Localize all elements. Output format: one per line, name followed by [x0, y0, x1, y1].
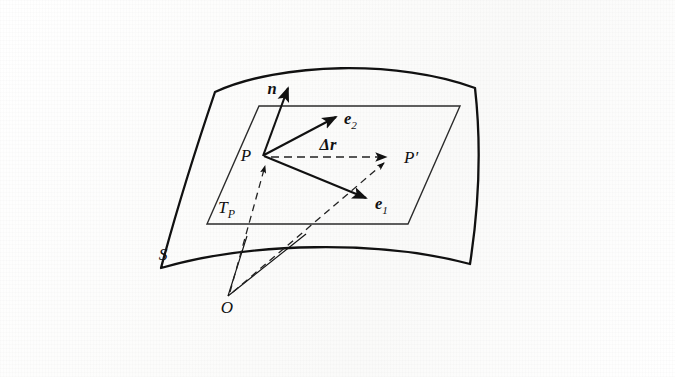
origin-rulings-group: [228, 234, 306, 296]
label-surface-s: S: [159, 244, 168, 264]
ruling-right: [228, 234, 306, 296]
label-point-p-prime: P′: [403, 148, 418, 167]
vector-e1-arrow: [264, 156, 366, 198]
label-tangent-plane: TP: [218, 197, 235, 221]
vector-n-arrow: [263, 88, 288, 156]
label-vector-e1-subscript: 1: [382, 204, 388, 216]
labels-group: S TP P P′ O n e2 e1 Δr: [159, 79, 419, 317]
label-origin-o: O: [221, 298, 233, 317]
label-vector-e2-base: e: [344, 109, 351, 128]
position-vectors-group: [230, 163, 384, 292]
surface-patch-group: [161, 68, 479, 268]
label-vector-e1-base: e: [375, 194, 382, 213]
label-tangent-plane-subscript: P: [227, 207, 235, 221]
label-point-p: P: [240, 146, 251, 165]
position-vector-to-p-prime: [233, 163, 384, 292]
tangent-plane-diagram: S TP P P′ O n e2 e1 Δr: [0, 0, 675, 377]
label-vector-e1: e1: [375, 194, 388, 216]
figure-root: S TP P P′ O n e2 e1 Δr: [0, 0, 675, 377]
label-vector-e2-subscript: 2: [351, 119, 357, 131]
label-delta-r: Δr: [319, 135, 337, 154]
surface-patch-outline: [161, 68, 479, 268]
label-vector-e2: e2: [344, 109, 357, 131]
label-vector-n: n: [267, 79, 276, 98]
